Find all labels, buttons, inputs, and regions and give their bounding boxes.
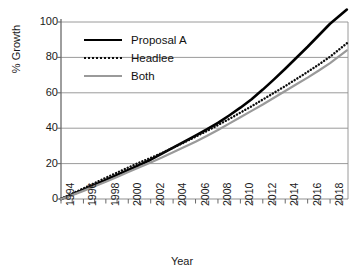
chart-legend: Proposal A Headlee Both (84, 32, 187, 86)
x-tick-label: 1998 (110, 183, 121, 206)
legend-swatch-headlee-icon (84, 53, 122, 63)
x-tick-label: 2018 (334, 183, 345, 206)
legend-item-both: Both (84, 68, 187, 83)
legend-label-proposal-a: Proposal A (131, 34, 187, 46)
x-axis-title: Year (0, 255, 364, 267)
x-tick-label: 2004 (177, 183, 188, 206)
legend-label-headlee: Headlee (131, 52, 174, 64)
x-tick-label: 2014 (289, 183, 300, 206)
x-tick-label: 1994 (65, 183, 76, 206)
line-chart: % Growth 020406080100 199419961998200020… (0, 0, 364, 275)
legend-item-headlee: Headlee (84, 50, 187, 65)
x-tick-label: 1996 (87, 183, 98, 206)
x-tick-label: 2008 (222, 183, 233, 206)
x-tick-label: 2012 (267, 183, 278, 206)
x-tick-label: 2002 (155, 183, 166, 206)
x-tick-label: 2000 (132, 183, 143, 206)
legend-item-proposal-a: Proposal A (84, 32, 187, 47)
x-tick-label: 2010 (244, 183, 255, 206)
x-tick-label: 2016 (312, 183, 323, 206)
x-tick-label: 2006 (200, 183, 211, 206)
legend-label-both: Both (131, 70, 155, 82)
legend-swatch-proposal-a-icon (84, 35, 122, 45)
legend-swatch-both-icon (84, 71, 122, 81)
